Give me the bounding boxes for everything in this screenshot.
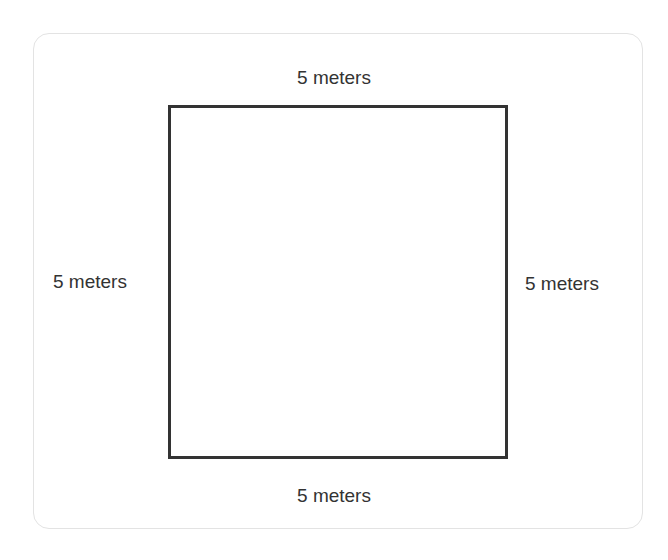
left-side-label: 5 meters bbox=[53, 272, 127, 291]
bottom-side-label: 5 meters bbox=[0, 486, 668, 505]
right-side-label: 5 meters bbox=[525, 274, 599, 293]
top-side-label: 5 meters bbox=[0, 68, 668, 87]
square-shape bbox=[168, 105, 508, 459]
